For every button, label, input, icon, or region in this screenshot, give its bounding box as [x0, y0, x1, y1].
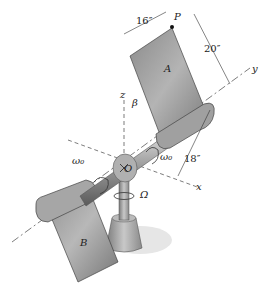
dim-18-label: 18″ [184, 153, 201, 164]
label-p: P [173, 11, 181, 22]
dim-16-label: 16″ [136, 15, 153, 26]
label-z: z [119, 89, 126, 100]
dim-20-label: 20″ [204, 43, 221, 54]
label-b: B [79, 237, 87, 248]
rotating-plates-diagram: 16″ P 20″ A y z β ω₀ ω₀ O 18″ x Ω B [0, 0, 260, 301]
label-omega-cap: Ω [139, 189, 148, 200]
label-beta: β [131, 97, 138, 108]
label-a: A [163, 63, 171, 74]
label-y: y [251, 63, 258, 74]
label-x: x [196, 181, 202, 192]
label-o: O [124, 163, 132, 174]
point-p [170, 25, 174, 29]
post [119, 180, 129, 220]
label-omega-left: ω₀ [72, 155, 84, 166]
label-omega-right: ω₀ [160, 151, 172, 162]
